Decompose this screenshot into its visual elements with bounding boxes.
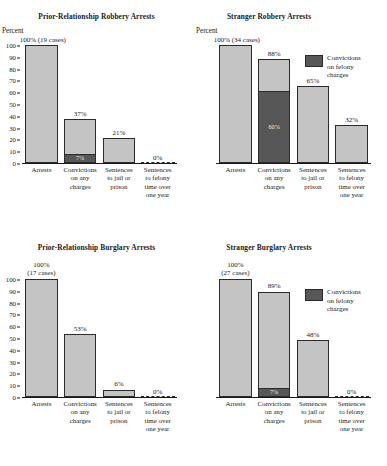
y-axis-tick: 40 [9, 346, 22, 353]
x-axis-label: Convictions on any charges [61, 166, 100, 191]
x-axis-label: Convictions on any charges [61, 400, 100, 425]
x-axis-label: Sentences to felony time over one year [332, 166, 371, 200]
x-axis-label: Sentences to jail or prison [294, 400, 333, 425]
bar [103, 390, 136, 397]
x-axis-labels: ArrestsConvictions on any chargesSentenc… [216, 166, 371, 216]
bar: 7% [258, 292, 291, 397]
y-axis-title: Percent [2, 27, 193, 35]
y-axis-tick: 90 [9, 53, 22, 60]
bar-slot: 6% [100, 279, 139, 397]
bar-value-label: 89% [255, 282, 294, 290]
y-axis-tick: 10 [9, 148, 22, 155]
bar-slot: 7%89% [255, 279, 294, 397]
bar-segment-felony-label: 7% [259, 389, 290, 395]
y-axis-tick: 20 [9, 136, 22, 143]
bar [297, 340, 330, 397]
bar [219, 45, 252, 163]
bars-group: 100% (17 cases)53%6%0% [22, 279, 177, 397]
bar-slot: 0% [138, 45, 177, 163]
x-axis-label: Arrests [216, 166, 255, 174]
bar-value-label: 32% [332, 116, 371, 124]
y-axis-tick: 60 [9, 323, 22, 330]
chart-title: Stranger Robbery Arrests [194, 12, 344, 21]
x-axis-label: Sentences to jail or prison [100, 400, 139, 425]
bar-value-label: 100% (17 cases) [22, 261, 61, 278]
y-axis-tick: 50 [9, 101, 22, 108]
bar-segment-felony: 7% [259, 388, 290, 396]
y-axis-tick: 50 [9, 335, 22, 342]
y-axis-tick: 100 [6, 276, 22, 283]
bar-slot: 53% [61, 279, 100, 397]
x-axis-baseline [22, 397, 177, 398]
x-axis-labels: ArrestsConvictions on any chargesSentenc… [22, 400, 177, 450]
legend-swatch-felony [305, 289, 323, 301]
chart-title: Prior-Relationship Robbery Arrests [0, 12, 193, 21]
bar [64, 334, 97, 397]
x-axis-baseline [216, 397, 371, 398]
x-axis-baseline [22, 163, 177, 164]
y-axis-tick: 80 [9, 299, 22, 306]
bar [25, 45, 58, 163]
bar-value-label: 37% [61, 110, 100, 118]
legend-label: Convictions on felony charges [327, 54, 361, 80]
bar: 60% [258, 59, 291, 163]
x-axis-label: Sentences to jail or prison [100, 166, 139, 191]
y-axis-tick: 40 [9, 112, 22, 119]
bar-value-label: 48% [294, 331, 333, 339]
x-axis-label: Arrests [22, 166, 61, 174]
chart-panel-stranger-burglary: Stranger Burglary Arrests 100% (27 cases… [194, 243, 387, 463]
bar-slot: 7%37% [61, 45, 100, 163]
y-axis [196, 45, 216, 163]
chart-title: Stranger Burglary Arrests [194, 243, 344, 252]
bar [335, 125, 368, 163]
bar-value-label: 21% [100, 129, 139, 137]
y-axis-tick: 0 [13, 394, 22, 401]
y-axis-tick: 10 [9, 382, 22, 389]
x-axis-label: Sentences to felony time over one year [138, 166, 177, 200]
bar [219, 279, 252, 397]
plot-area: 1009080706050403020100 100% (19 cases)7%… [2, 45, 177, 163]
bar-segment-felony-label: 60% [259, 124, 290, 130]
bar-value-label: 6% [100, 380, 139, 388]
plot-area: 1009080706050403020100 100% (17 cases)53… [2, 279, 177, 397]
x-axis-label: Sentences to jail or prison [294, 166, 333, 191]
bar [297, 86, 330, 163]
x-axis-label: Sentences to felony time over one year [332, 400, 371, 434]
bar [103, 138, 136, 163]
y-axis-tick: 90 [9, 287, 22, 294]
chart-panel-prior-relationship-robbery: Prior-Relationship Robbery Arrests Perce… [0, 12, 193, 227]
x-axis-label: Arrests [216, 400, 255, 408]
y-axis-tick: 60 [9, 89, 22, 96]
bar-slot: 100% (17 cases) [22, 279, 61, 397]
bar-slot: 60%88% [255, 45, 294, 163]
bar-slot: 21% [100, 45, 139, 163]
bar-slot: 100% (19 cases) [22, 45, 61, 163]
bar-segment-felony: 7% [65, 154, 96, 162]
y-axis-tick: 0 [13, 160, 22, 167]
bar-value-label: 53% [61, 325, 100, 333]
chart-panel-prior-relationship-burglary: Prior-Relationship Burglary Arrests 1009… [0, 243, 193, 463]
bar-slot: 100% (34 cases) [216, 45, 255, 163]
bar-segment-felony-label: 7% [65, 155, 96, 161]
bar-slot: 100% (27 cases) [216, 279, 255, 397]
y-axis: 1009080706050403020100 [2, 279, 22, 397]
bar-value-label: 88% [255, 50, 294, 58]
y-axis-tick: 70 [9, 311, 22, 318]
y-axis-tick: 30 [9, 358, 22, 365]
bar-value-label: 0% [138, 154, 177, 162]
figure-page: Prior-Relationship Robbery Arrests Perce… [0, 0, 387, 466]
x-axis-label: Arrests [22, 400, 61, 408]
y-axis-tick: 20 [9, 370, 22, 377]
legend-swatch-felony [305, 55, 323, 67]
bar-value-label: 100% (19 cases) [20, 36, 84, 44]
bars-group: 100% (19 cases)7%37%21%0% [22, 45, 177, 163]
bar-segment-felony: 60% [259, 91, 290, 162]
x-axis-label: Convictions on any charges [255, 166, 294, 191]
y-axis-title: Percent [196, 27, 387, 35]
x-axis-label: Sentences to felony time over one year [138, 400, 177, 434]
y-axis-tick: 70 [9, 77, 22, 84]
chart-panel-stranger-robbery: Stranger Robbery Arrests Percent 100% (3… [194, 12, 387, 227]
x-axis-baseline [216, 163, 371, 164]
y-axis-tick: 30 [9, 124, 22, 131]
chart-title: Prior-Relationship Burglary Arrests [0, 243, 193, 252]
